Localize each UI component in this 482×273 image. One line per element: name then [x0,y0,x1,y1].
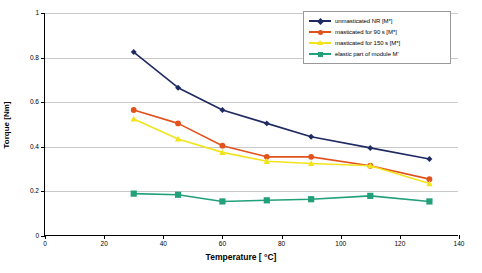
y-tick-label: 1 [35,10,39,17]
legend-label: elastic part of module M' [335,51,399,57]
x-tick-label: 60 [219,241,226,248]
x-tick [459,235,460,239]
y-tick-label: 0.4 [30,144,39,151]
legend-item-3[interactable]: masticated for 150 s [M*] [309,38,446,48]
chart-legend: unmasticated NR [M*]masticated for 90 s … [303,11,451,64]
data-point [308,196,314,202]
data-point [308,134,314,140]
legend-label: masticated for 150 s [M*] [335,40,400,46]
legend-label: unmasticated NR [M*] [335,18,392,24]
x-axis-title: Temperature [ °C] [0,252,482,262]
legend-item-1[interactable]: unmasticated NR [M*] [309,16,446,26]
x-tick-label: 100 [335,241,346,248]
x-tick-label: 20 [101,241,108,248]
y-axis-title: Torque [Nm] [2,102,11,149]
y-tick-label: 0.2 [30,188,39,195]
x-tick-label: 120 [394,241,405,248]
y-tick-label: 0.8 [30,54,39,61]
x-tick-label: 140 [454,241,465,248]
legend-swatch-icon [309,27,331,37]
data-point [131,116,137,122]
data-point [131,191,137,197]
data-point [426,198,432,204]
data-point [308,154,314,160]
series-4 [131,191,433,205]
series-line [134,52,430,159]
legend-item-4[interactable]: elastic part of module M' [309,49,446,59]
data-point [220,143,226,149]
data-point [219,107,225,113]
legend-item-2[interactable]: masticated for 90 s [M*] [309,27,446,37]
data-point [367,193,373,199]
x-tick-label: 0 [43,241,47,248]
data-point [219,198,225,204]
data-point [131,107,137,113]
y-tick-label: 0.6 [30,99,39,106]
data-point [264,120,270,126]
series-line [134,110,430,179]
y-tick-label: 0 [35,233,39,240]
legend-swatch-icon [309,38,331,48]
chart-root: Torque [Nm] 00.20.40.60.81 0204060801001… [0,0,482,273]
x-tick-label: 40 [160,241,167,248]
x-tick-label: 80 [278,241,285,248]
data-point [367,145,373,151]
legend-swatch-icon [309,49,331,59]
data-point [264,197,270,203]
series-1 [131,49,433,162]
data-point [175,120,181,126]
data-point [175,192,181,198]
legend-label: masticated for 90 s [M*] [335,29,397,35]
legend-swatch-icon [309,16,331,26]
data-point [426,156,432,162]
